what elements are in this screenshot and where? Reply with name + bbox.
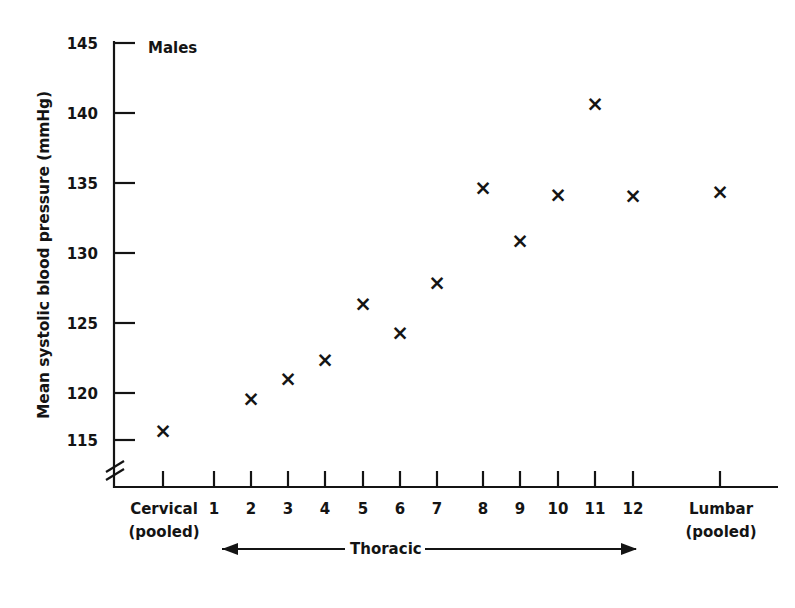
data-point-marker: × xyxy=(428,271,446,295)
data-point-marker: × xyxy=(586,92,604,116)
data-point-marker: × xyxy=(279,367,297,391)
data-point-marker: × xyxy=(474,176,492,200)
data-point-marker: × xyxy=(624,184,642,208)
data-point-marker: × xyxy=(316,348,334,372)
scatter-plot-figure: Mean systolic blood pressure (mmHg) Male… xyxy=(0,0,795,608)
data-point-marker: × xyxy=(242,387,260,411)
plot-canvas: ××××××××××××× xyxy=(0,0,795,608)
data-point-marker: × xyxy=(354,292,372,316)
arrow-head-left-icon xyxy=(222,543,238,555)
data-point-marker: × xyxy=(549,183,567,207)
data-point-marker: × xyxy=(511,229,529,253)
arrow-head-right-icon xyxy=(621,543,637,555)
data-point-group: ××××××××××××× xyxy=(154,92,729,444)
data-point-marker: × xyxy=(154,419,172,443)
data-point-marker: × xyxy=(711,180,729,204)
y-axis-ticks xyxy=(114,43,135,440)
data-point-marker: × xyxy=(391,321,409,345)
x-axis-ticks xyxy=(163,471,720,487)
thoracic-range-arrow xyxy=(222,543,637,555)
